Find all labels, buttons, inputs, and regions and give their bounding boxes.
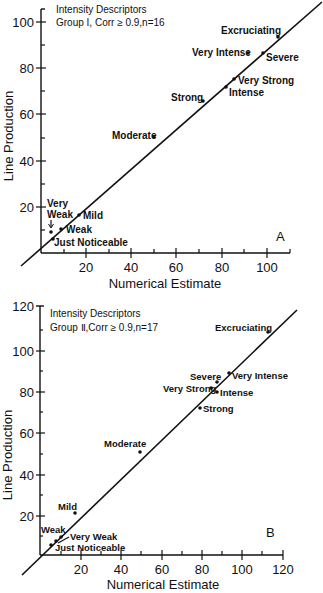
svg-text:Severe: Severe — [190, 371, 221, 382]
point-just-noticeable — [49, 543, 53, 547]
svg-text:Excruciating: Excruciating — [221, 25, 281, 36]
panel-label-b: B — [266, 525, 275, 540]
svg-text:60: 60 — [20, 426, 34, 441]
svg-text:100: 100 — [12, 344, 34, 359]
svg-text:60: 60 — [155, 562, 169, 577]
svg-text:Excruciating: Excruciating — [215, 322, 272, 333]
svg-text:Weak: Weak — [41, 524, 66, 535]
panel-label-a: A — [276, 229, 285, 244]
svg-text:20: 20 — [74, 562, 88, 577]
annotation-b-line2: Group Ⅱ,Corr ≥ 0.9,n=17 — [50, 322, 158, 333]
svg-text:Just Noticeable: Just Noticeable — [54, 237, 128, 248]
svg-text:60: 60 — [20, 107, 34, 122]
svg-text:Very Strong: Very Strong — [163, 383, 217, 394]
x-axis-title-b: Numerical Estimate — [107, 577, 220, 592]
svg-text:100: 100 — [231, 562, 253, 577]
figure: 100 80 60 40 20 20 40 60 80 100 N — [0, 0, 323, 593]
point-strong — [198, 406, 202, 410]
svg-text:Just Noticeable: Just Noticeable — [55, 542, 125, 553]
svg-text:100: 100 — [12, 15, 34, 30]
regression-line-b — [22, 310, 297, 575]
panel-b: 120 100 80 60 40 20 20 40 60 80 100 — [0, 299, 297, 592]
data-points-b — [49, 330, 270, 547]
panel-a: 100 80 60 40 20 20 40 60 80 100 N — [1, 2, 322, 291]
svg-text:Very Intense: Very Intense — [232, 370, 288, 381]
svg-text:80: 80 — [20, 61, 34, 76]
annotation-b-line1: Intensity Descriptors — [50, 308, 141, 319]
point-intense — [224, 85, 228, 89]
svg-text:Intense: Intense — [229, 87, 264, 98]
svg-text:Very Weak: Very Weak — [70, 531, 118, 542]
svg-text:120: 120 — [272, 562, 294, 577]
y-tick-labels-b: 120 100 80 60 40 20 — [12, 299, 34, 524]
svg-text:20: 20 — [20, 509, 34, 524]
svg-text:Very Strong: Very Strong — [238, 75, 294, 86]
point-very-weak — [59, 535, 63, 539]
x-tick-labels-b: 20 40 60 80 100 120 — [74, 562, 294, 577]
point-very-strong — [232, 77, 236, 81]
point-labels-a: Excruciating Very Intense Severe Very St… — [47, 25, 299, 248]
svg-text:40: 40 — [20, 468, 34, 483]
svg-text:Mild: Mild — [83, 210, 103, 221]
point-severe — [261, 51, 265, 55]
svg-text:80: 80 — [20, 385, 34, 400]
svg-text:40: 40 — [124, 260, 138, 275]
annotation-a-line1: Intensity Descriptors — [56, 4, 147, 15]
annotation-a-line2: Group I, Corr ≥ 0.9,n=16 — [56, 17, 165, 28]
svg-text:Severe: Severe — [266, 52, 299, 63]
svg-text:40: 40 — [114, 562, 128, 577]
svg-text:Weak: Weak — [47, 209, 73, 220]
svg-text:Strong: Strong — [203, 403, 234, 414]
x-axis-title-a: Numerical Estimate — [109, 276, 222, 291]
svg-text:Very Intense: Very Intense — [192, 47, 251, 58]
svg-text:40: 40 — [20, 154, 34, 169]
svg-text:Weak: Weak — [66, 224, 92, 235]
y-axis-title-b: Line Production — [0, 410, 15, 500]
point-weak — [59, 227, 63, 231]
point-very-weak — [49, 230, 53, 234]
svg-text:100: 100 — [256, 260, 278, 275]
svg-text:Very: Very — [47, 198, 69, 209]
svg-text:Moderate: Moderate — [104, 438, 146, 449]
y-axis-title-a: Line Production — [1, 91, 16, 181]
svg-text:Strong: Strong — [171, 92, 203, 103]
svg-text:20: 20 — [79, 260, 93, 275]
point-very-intense — [227, 371, 231, 375]
svg-text:120: 120 — [12, 299, 34, 314]
x-tick-labels-a: 20 40 60 80 100 — [79, 260, 278, 275]
svg-text:80: 80 — [215, 260, 229, 275]
svg-text:Intense: Intense — [220, 387, 253, 398]
point-mild — [77, 213, 81, 217]
svg-text:20: 20 — [20, 200, 34, 215]
svg-text:60: 60 — [169, 260, 183, 275]
point-moderate — [138, 450, 142, 454]
svg-text:Moderate: Moderate — [112, 130, 157, 141]
svg-text:Mild: Mild — [58, 501, 77, 512]
svg-text:80: 80 — [195, 562, 209, 577]
